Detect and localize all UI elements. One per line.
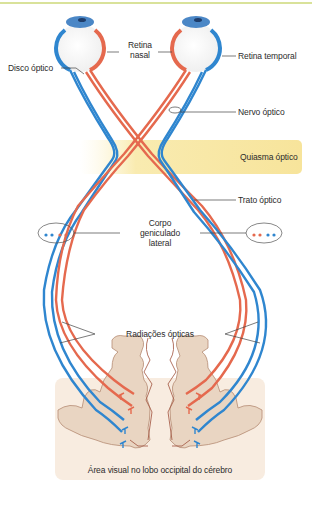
- label-trato-optico: Trato óptico: [238, 195, 281, 205]
- label-corpo-line3: lateral: [120, 238, 200, 248]
- right-eye: [172, 16, 220, 72]
- pathway-illustration: [0, 0, 320, 506]
- label-retina-temporal: Retina temporal: [238, 51, 297, 61]
- label-corpo-geniculado-lateral: Corpo geniculado lateral: [120, 218, 200, 248]
- label-radiacoes-opticas: Radiações ópticas: [96, 329, 224, 339]
- label-nervo-optico: Nervo óptico: [238, 107, 285, 117]
- label-corpo-line1: Corpo: [120, 218, 200, 228]
- left-eye: [56, 16, 104, 72]
- label-corpo-line2: geniculado: [120, 228, 200, 238]
- label-retina-nasal: Retina nasal: [120, 40, 160, 60]
- lgn-right-ellipse: [246, 223, 282, 243]
- label-retina-nasal-line1: Retina: [120, 40, 160, 50]
- visual-pathway-diagram: Disco óptico Retina nasal Retina tempora…: [0, 0, 320, 506]
- label-retina-nasal-line2: nasal: [120, 50, 160, 60]
- label-area-visual: Área visual no lobo occipital do cérebro: [55, 465, 265, 475]
- label-quiasma-optico: Quiasma óptico: [240, 152, 298, 162]
- label-disco-optico: Disco óptico: [8, 63, 53, 73]
